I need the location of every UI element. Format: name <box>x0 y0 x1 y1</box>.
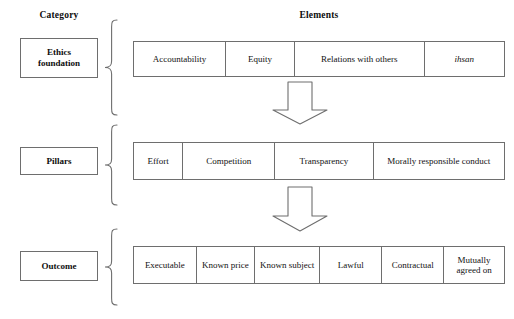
diagram-canvas: Category Elements Ethicsfoundation Accou… <box>0 0 514 319</box>
down-arrow-ethics-to-pillars <box>272 81 328 125</box>
element-cell: Equity <box>226 42 295 76</box>
brace-ethics-foundation <box>103 19 119 116</box>
category-box-pillars: Pillars <box>20 147 98 175</box>
column-header-elements: Elements <box>133 10 505 20</box>
brace-outcome <box>103 228 119 306</box>
element-cell: Accountability <box>134 42 226 76</box>
element-cell: Contractual <box>382 247 444 283</box>
category-box-ethics-foundation: Ethicsfoundation <box>20 38 98 78</box>
element-cell: Mutually agreed on <box>444 247 504 283</box>
element-cell: ihsan <box>425 42 504 76</box>
element-cell: Executable <box>134 247 197 283</box>
element-cell: Effort <box>134 143 183 179</box>
down-arrow-pillars-to-outcome <box>272 186 328 232</box>
category-box-label: Pillars <box>47 156 72 167</box>
element-cell: Relations with others <box>295 42 425 76</box>
category-box-label: Outcome <box>42 261 77 272</box>
element-cell: Lawful <box>320 247 382 283</box>
element-row-outcome: ExecutableKnown priceKnown subjectLawful… <box>133 246 505 284</box>
column-header-category: Category <box>20 10 98 20</box>
category-box-label: Ethicsfoundation <box>38 47 80 69</box>
element-cell: Known subject <box>255 247 321 283</box>
element-cell: Transparency <box>275 143 373 179</box>
element-row-ethics-foundation: AccountabilityEquityRelations with other… <box>133 41 505 77</box>
element-cell: Competition <box>183 143 275 179</box>
element-cell: Known price <box>197 247 255 283</box>
brace-pillars <box>103 124 119 206</box>
category-box-outcome: Outcome <box>20 251 98 281</box>
element-row-pillars: EffortCompetitionTransparencyMorally res… <box>133 142 505 180</box>
element-cell: Morally responsible conduct <box>374 143 504 179</box>
